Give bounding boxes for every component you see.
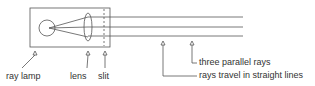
label-slit: slit	[98, 71, 109, 81]
label-parallel-rays: three parallel rays	[199, 57, 271, 67]
label-lens: lens	[70, 71, 87, 81]
ray-diagram: ray lamp lens slit three parallel rays r…	[0, 0, 315, 86]
label-ray-lamp: ray lamp	[6, 71, 41, 81]
label-straight-lines: rays travel in straight lines	[199, 70, 303, 80]
